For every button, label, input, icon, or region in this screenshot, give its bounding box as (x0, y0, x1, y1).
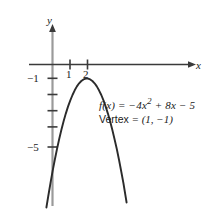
parabola-figure: y x 1 2 −1 −5 f(x) = −4x2 + 8x − 5 Verte… (0, 0, 211, 216)
x-axis-label: x (196, 59, 201, 71)
x-tick-label-2: 2 (83, 68, 89, 80)
y-axis-label: y (47, 14, 52, 26)
equation-body: = −4x (115, 99, 147, 111)
x-axis-arrowhead (188, 61, 196, 67)
equation-tail: + 8x − 5 (152, 99, 196, 111)
equation-argument: (x) (102, 99, 115, 111)
x-tick-label-1: 1 (66, 68, 72, 80)
vertex-label: Vertex (99, 113, 129, 125)
vertex-coordinates: = (1, −1) (129, 113, 173, 125)
y-tick-label-minus-1: −1 (27, 72, 39, 84)
vertex-annotation: Vertex = (1, −1) (99, 113, 173, 125)
equation-annotation: f(x) = −4x2 + 8x − 5 (99, 96, 195, 111)
y-tick-label-minus-5: −5 (27, 141, 39, 153)
